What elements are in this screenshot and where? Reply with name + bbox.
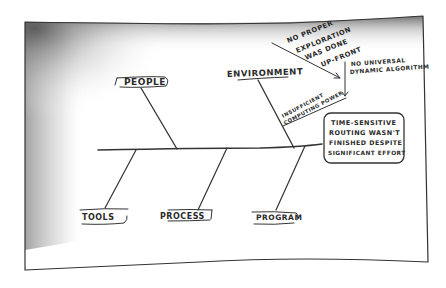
fishbone-diagram: PEOPLE ENVIRONMENT TOOLS PROCESS PROGRAM… bbox=[0, 0, 446, 288]
category-label: TOOLS bbox=[82, 213, 114, 222]
category-label: PROGRAM bbox=[256, 213, 302, 222]
category-label: PEOPLE bbox=[124, 77, 166, 87]
effect-line: TIME-SENSITIVE bbox=[331, 119, 396, 127]
effect-line: FINISHED DESPITE bbox=[329, 139, 402, 146]
effect-line: SIGNIFICANT EFFORT bbox=[328, 150, 406, 156]
category-label: PROCESS bbox=[160, 212, 205, 221]
category-process: PROCESS bbox=[160, 210, 212, 222]
effect-line: ROUTING WASN'T bbox=[329, 129, 400, 137]
